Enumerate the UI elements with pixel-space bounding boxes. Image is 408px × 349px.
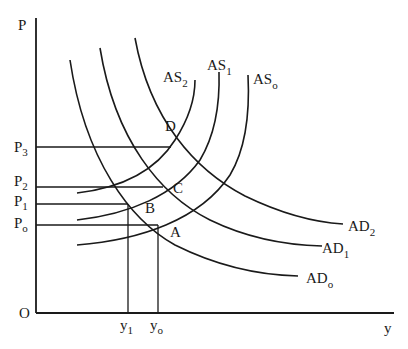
ad1-label: AD1	[322, 240, 349, 260]
point-a-label: A	[170, 224, 181, 240]
output-label-y1: y1	[120, 317, 133, 336]
price-label-p1: P1	[14, 193, 28, 212]
origin-label: O	[19, 305, 30, 321]
point-d-label: D	[165, 118, 176, 134]
point-b-label: B	[145, 200, 155, 216]
ad0-curve	[70, 60, 298, 276]
price-label-p3: P3	[14, 139, 28, 158]
as2-label: AS2	[163, 69, 188, 89]
as0-label: ASo	[253, 71, 278, 91]
as1-curve	[77, 72, 219, 220]
point-c-label: C	[173, 180, 183, 196]
as2-curve	[77, 80, 195, 193]
as-ad-diagram: P y O P3 P2 P1 Po y1 yo AS2 AS1 ASo AD2 …	[0, 0, 408, 349]
output-axis-label: y	[384, 320, 392, 336]
price-label-p2: P2	[14, 173, 28, 192]
as0-curve	[77, 75, 248, 245]
ad0-label: ADo	[306, 270, 334, 290]
price-axis-label: P	[18, 17, 26, 33]
ad2-label: AD2	[348, 218, 375, 238]
output-label-y0: yo	[150, 317, 164, 336]
price-label-p0: Po	[14, 215, 28, 234]
